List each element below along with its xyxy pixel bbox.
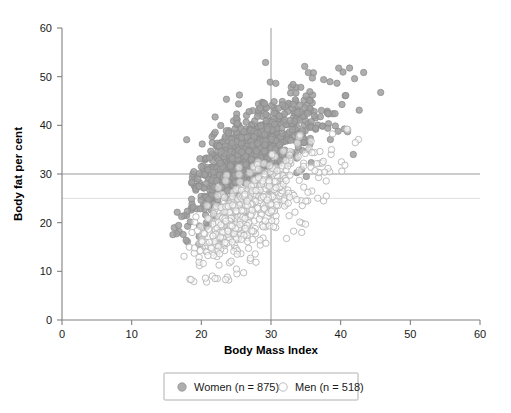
data-point-women xyxy=(297,102,303,108)
data-point-men xyxy=(238,236,244,242)
data-point-women xyxy=(191,168,197,174)
x-tick-label: 0 xyxy=(59,328,65,340)
x-tick-label: 50 xyxy=(404,328,416,340)
data-point-men xyxy=(297,132,303,138)
data-point-men xyxy=(257,237,263,243)
data-point-women xyxy=(279,130,285,136)
data-point-men xyxy=(320,158,326,164)
data-point-women xyxy=(225,130,231,136)
data-point-men xyxy=(218,222,224,228)
data-point-men xyxy=(240,270,246,276)
data-point-women xyxy=(290,81,296,87)
data-point-women xyxy=(325,125,331,131)
data-point-men xyxy=(188,276,194,282)
data-point-women xyxy=(305,110,311,116)
data-point-women xyxy=(317,114,323,120)
data-point-women xyxy=(213,177,219,183)
data-point-men xyxy=(290,228,296,234)
data-point-men xyxy=(204,202,210,208)
y-tick-label: 10 xyxy=(40,265,52,277)
data-point-women xyxy=(343,92,349,98)
data-point-men xyxy=(285,163,291,169)
data-point-women xyxy=(212,114,218,120)
data-point-men xyxy=(191,245,197,251)
data-point-women xyxy=(268,136,274,142)
data-point-men xyxy=(236,164,242,170)
data-point-women xyxy=(196,183,202,189)
data-point-women xyxy=(199,141,205,147)
data-point-women xyxy=(239,149,245,155)
data-point-women xyxy=(262,59,268,65)
data-point-women xyxy=(350,151,356,157)
data-point-men xyxy=(217,234,223,240)
data-point-women xyxy=(178,213,184,219)
data-point-men xyxy=(266,162,272,168)
data-point-men xyxy=(312,167,318,173)
data-point-men xyxy=(352,139,358,145)
data-point-women xyxy=(276,113,282,119)
data-point-women xyxy=(197,206,203,212)
chart-legend: Women (n = 875) Men (n = 518) xyxy=(164,373,364,400)
data-point-men xyxy=(260,224,266,230)
data-point-women xyxy=(197,156,203,162)
data-point-men xyxy=(247,255,253,261)
data-point-women xyxy=(198,163,204,169)
data-point-men xyxy=(237,179,243,185)
legend-label-women: Women (n = 875) xyxy=(194,381,279,393)
data-point-men xyxy=(189,229,195,235)
data-point-men xyxy=(287,194,293,200)
data-point-men xyxy=(233,266,239,272)
data-point-women xyxy=(287,137,293,143)
data-point-men xyxy=(286,152,292,158)
data-point-men xyxy=(216,251,222,257)
y-tick-label: 50 xyxy=(40,71,52,83)
data-point-men xyxy=(199,239,205,245)
data-point-women xyxy=(180,231,186,237)
data-point-men xyxy=(268,208,274,214)
data-point-women xyxy=(223,96,229,102)
data-point-men xyxy=(233,208,239,214)
data-point-women xyxy=(261,100,267,106)
data-point-men xyxy=(270,223,276,229)
data-point-men xyxy=(317,148,323,154)
data-point-men xyxy=(229,193,235,199)
x-axis-title: Body Mass Index xyxy=(224,344,319,356)
data-point-men xyxy=(264,197,270,203)
chart-canvas: 0102030405060 0102030405060 Body Mass In… xyxy=(0,0,511,413)
data-point-men xyxy=(212,275,218,281)
data-point-men xyxy=(309,149,315,155)
data-point-men xyxy=(266,178,272,184)
data-point-men xyxy=(344,126,350,132)
x-tick-label: 20 xyxy=(195,328,207,340)
data-point-women xyxy=(263,111,269,117)
data-point-men xyxy=(221,194,227,200)
data-point-men xyxy=(200,260,206,266)
data-point-men xyxy=(201,230,207,236)
scatter-plot-figure: 0102030405060 0102030405060 Body Mass In… xyxy=(0,0,511,413)
data-point-men xyxy=(262,218,268,224)
data-point-men xyxy=(305,189,311,195)
data-point-women xyxy=(271,121,277,127)
data-point-men xyxy=(193,214,199,220)
data-point-women xyxy=(311,113,317,119)
data-point-women xyxy=(301,139,307,145)
data-point-women xyxy=(351,75,357,81)
data-point-men xyxy=(261,205,267,211)
data-point-women xyxy=(303,173,309,179)
data-point-men xyxy=(210,233,216,239)
data-point-women xyxy=(258,123,264,129)
data-point-women xyxy=(327,79,333,85)
data-point-men xyxy=(205,252,211,258)
data-point-women xyxy=(356,107,362,113)
data-point-women xyxy=(234,120,240,126)
data-point-women xyxy=(183,136,189,142)
data-point-men xyxy=(253,187,259,193)
data-point-men xyxy=(286,213,292,219)
data-point-women xyxy=(255,140,261,146)
data-point-women xyxy=(318,107,324,113)
data-point-women xyxy=(189,179,195,185)
data-point-men xyxy=(210,210,216,216)
data-point-women xyxy=(190,204,196,210)
data-point-men xyxy=(228,258,234,264)
data-point-men xyxy=(255,166,261,172)
